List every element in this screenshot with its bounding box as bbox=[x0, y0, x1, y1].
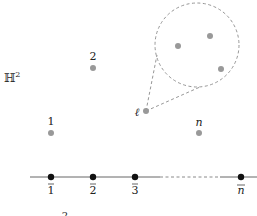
boundary-label-3: 3 bbox=[132, 184, 139, 197]
zoom-tangent-left bbox=[146, 55, 157, 111]
boundary-point-1 bbox=[48, 174, 54, 180]
zoom-tangent-right bbox=[146, 87, 200, 111]
boundary-label-1: 1 bbox=[48, 184, 55, 197]
zoom-points bbox=[175, 33, 224, 72]
hyperbolic-diagram: ℍ2 2 1 n ℓ 1 2 3 n 2 bbox=[0, 0, 257, 216]
boundary-label-2: 2 bbox=[90, 184, 97, 197]
point-ell-label: ℓ bbox=[135, 106, 140, 119]
zoom-point bbox=[175, 43, 181, 49]
point-2-label: 2 bbox=[90, 50, 97, 63]
boundary-point-3 bbox=[132, 174, 138, 180]
boundary-label-n: n bbox=[237, 184, 244, 197]
zoom-point bbox=[207, 33, 213, 39]
space-label: ℍ2 bbox=[4, 70, 20, 85]
boundary-point-2 bbox=[90, 174, 96, 180]
zoom-circle bbox=[155, 3, 239, 87]
point-n-label: n bbox=[195, 116, 202, 129]
point-1 bbox=[48, 130, 54, 136]
point-ell bbox=[143, 108, 149, 114]
footer-fragment: 2 bbox=[62, 210, 68, 216]
point-1-label: 1 bbox=[48, 115, 55, 128]
boundary-point-n bbox=[238, 174, 244, 180]
point-2 bbox=[90, 65, 96, 71]
zoom-point bbox=[218, 66, 224, 72]
point-n bbox=[196, 130, 202, 136]
